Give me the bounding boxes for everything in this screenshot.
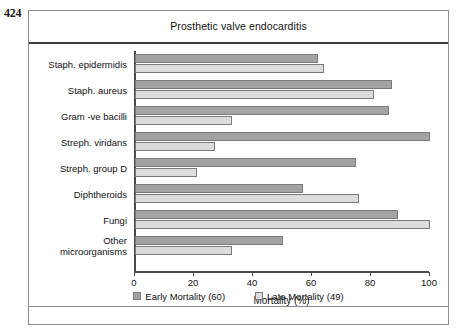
bar-group: Staph. aureus: [29, 77, 448, 103]
bar-early-mortality: [135, 210, 398, 219]
legend-item[interactable]: Early Mortality (60): [133, 291, 225, 302]
category-label: Streph. group D: [0, 163, 127, 174]
x-tick-mark: [193, 272, 194, 276]
chart-legend: Early Mortality (60)Late Mortality (49): [29, 288, 448, 304]
bar-early-mortality: [135, 80, 392, 89]
bar-early-mortality: [135, 54, 318, 63]
bar-group: Gram -ve bacilli: [29, 103, 448, 129]
figure-frame: Prosthetic valve endocarditis Staph. epi…: [28, 10, 449, 325]
title-band: Prosthetic valve endocarditis: [29, 11, 448, 41]
category-label: Streph. viridans: [0, 137, 127, 148]
bar-late-mortality: [135, 142, 215, 151]
category-label: Gram -ve bacilli: [0, 111, 127, 122]
legend-swatch-icon: [133, 292, 141, 300]
bars-container: [135, 155, 430, 181]
bar-early-mortality: [135, 106, 389, 115]
bar-early-mortality: [135, 132, 430, 141]
x-tick-label: 80: [365, 277, 376, 288]
bar-group: Staph. epidermidis: [29, 51, 448, 77]
bar-group: Streph. group D: [29, 155, 448, 181]
bar-late-mortality: [135, 168, 197, 177]
legend-swatch-icon: [255, 292, 263, 300]
x-tick-mark: [311, 272, 312, 276]
bar-early-mortality: [135, 184, 303, 193]
category-label: Staph. epidermidis: [0, 59, 127, 70]
bar-groups: Staph. epidermidisStaph. aureusGram -ve …: [29, 51, 448, 271]
bar-late-mortality: [135, 90, 374, 99]
legend-label: Early Mortality (60): [145, 291, 225, 302]
bars-container: [135, 181, 430, 207]
bars-container: [135, 233, 430, 259]
bar-group: Other microorganisms: [29, 233, 448, 259]
legend-item[interactable]: Late Mortality (49): [255, 291, 344, 302]
bar-early-mortality: [135, 236, 283, 245]
x-tick-mark: [134, 272, 135, 276]
x-tick-label: 20: [188, 277, 199, 288]
bar-late-mortality: [135, 64, 324, 73]
bars-container: [135, 103, 430, 129]
bar-group: Fungi: [29, 207, 448, 233]
legend-separator-rule: [29, 306, 448, 307]
bar-late-mortality: [135, 194, 359, 203]
category-label: Diphtheroids: [0, 189, 127, 200]
x-tick-mark: [252, 272, 253, 276]
x-tick-label: 100: [421, 277, 437, 288]
x-tick-mark: [429, 272, 430, 276]
plot-area: Staph. epidermidisStaph. aureusGram -ve …: [29, 45, 448, 283]
page-number: 424: [4, 6, 21, 21]
bars-container: [135, 207, 430, 233]
bars-container: [135, 51, 430, 77]
bars-container: [135, 129, 430, 155]
bar-late-mortality: [135, 220, 430, 229]
category-label: Staph. aureus: [0, 85, 127, 96]
bar-group: Diphtheroids: [29, 181, 448, 207]
bars-container: [135, 77, 430, 103]
x-tick-label: 0: [131, 277, 136, 288]
x-tick-label: 40: [247, 277, 258, 288]
bar-late-mortality: [135, 246, 232, 255]
bar-group: Streph. viridans: [29, 129, 448, 155]
x-tick-label: 60: [306, 277, 317, 288]
x-tick-mark: [370, 272, 371, 276]
category-label: Other microorganisms: [0, 235, 127, 257]
bar-early-mortality: [135, 158, 356, 167]
chart-title: Prosthetic valve endocarditis: [170, 20, 307, 32]
title-separator-rule: [29, 42, 448, 44]
bar-late-mortality: [135, 116, 232, 125]
category-label: Fungi: [0, 215, 127, 226]
legend-label: Late Mortality (49): [267, 291, 344, 302]
